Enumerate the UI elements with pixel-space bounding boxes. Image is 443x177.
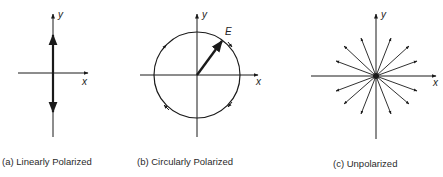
rotation-arrow-icon	[162, 45, 166, 50]
panel-b-x-label: x	[256, 76, 261, 87]
panel-c-caption: (c) Unpolarized	[333, 158, 397, 169]
panel-a-caption: (a) Linearly Polarized	[2, 156, 92, 167]
panel-b-e-label: E	[225, 26, 232, 37]
panel-b-y-label: y	[202, 9, 207, 20]
panel-c-y-label: y	[381, 9, 386, 20]
polarization-diagram	[0, 0, 443, 177]
panel-b-circular	[140, 14, 258, 137]
e-vector	[197, 41, 222, 75]
panel-b-caption: (b) Circularly Polarized	[137, 156, 233, 167]
panel-c-unpolarized	[311, 14, 436, 139]
panel-a-linear	[18, 14, 88, 137]
panel-a-x-label: x	[82, 76, 87, 87]
panel-c-x-label: x	[433, 77, 438, 88]
panel-a-y-label: y	[58, 9, 63, 20]
